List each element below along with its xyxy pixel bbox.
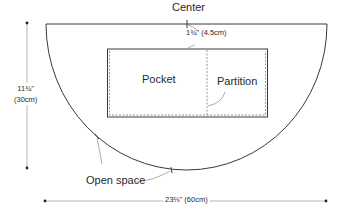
center-label: Center: [172, 1, 205, 13]
width-dim-dot-right: [325, 200, 328, 203]
pocket-label: Pocket: [142, 73, 176, 85]
open-space-tick-2: [171, 167, 172, 173]
height-cm: (30cm): [14, 94, 37, 105]
pattern-diagram: [0, 0, 343, 219]
width-label: 23⅔" (60cm): [163, 195, 210, 204]
height-inches: 11¾": [14, 83, 37, 94]
partition-label: Partition: [217, 75, 257, 87]
partition-leader: [208, 92, 225, 106]
height-label: 11¾" (30cm): [14, 83, 37, 105]
height-dim-dot-top: [26, 22, 29, 25]
open-space-label: Open space: [86, 174, 145, 186]
open-space-leader-1: [97, 138, 102, 164]
pocket-top-leader: [188, 45, 195, 48]
width-dim-dot-left: [44, 200, 47, 203]
height-dim-dot-bottom: [26, 167, 29, 170]
semicircle-outline: [46, 24, 327, 170]
center-offset-label: 1¾" (4.5cm): [186, 28, 227, 37]
